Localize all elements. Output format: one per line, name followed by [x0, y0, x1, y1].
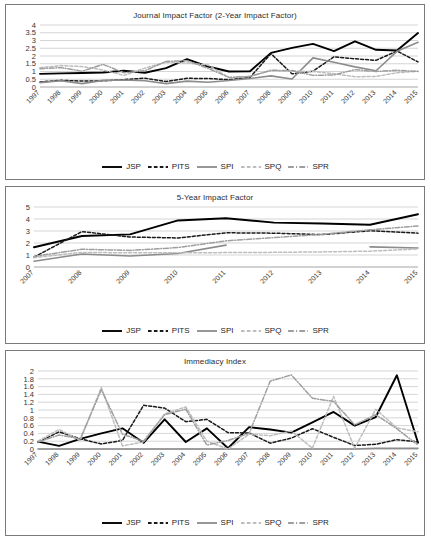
legend-item-jsp[interactable]: JSP [101, 327, 141, 335]
y-axis-tick-label: 2 [26, 239, 30, 248]
y-axis-tick-label: 1 [30, 406, 34, 415]
chart-panel-five-year-impact-factor: 5-Year Impact Factor 0123452007200820092… [5, 186, 425, 344]
chart-panel-journal-impact-factor: Journal Impact Factor (2-Year Impact Fac… [5, 4, 425, 180]
x-axis-tick-label: 2014 [382, 89, 398, 105]
x-axis-tick-label: 1997 [23, 451, 39, 467]
legend-item-pits[interactable]: PITS [147, 327, 190, 335]
x-axis-tick-label: 2005 [193, 89, 209, 105]
legend-swatch-pits [147, 163, 169, 171]
y-axis-tick-label: 2.5 [26, 44, 36, 53]
chart-legend: JSPPITSSPISPQSPR [6, 327, 424, 335]
legend-label-spr: SPR [312, 327, 328, 335]
x-axis-tick-label: 2006 [214, 89, 230, 105]
chart-legend: JSPPITSSPISPQSPR [6, 163, 424, 171]
x-axis-tick-label: 2008 [255, 451, 271, 467]
legend-label-pits: PITS [172, 519, 190, 527]
y-axis-tick-label: 3 [26, 227, 30, 236]
legend-swatch-spi [196, 163, 218, 171]
x-axis-tick-label: 2010 [298, 89, 314, 105]
legend-item-spr[interactable]: SPR [287, 519, 328, 527]
y-axis-tick-label: 1.4 [24, 390, 34, 399]
y-axis-tick-label: 5 [26, 203, 30, 212]
x-axis-tick-label: 1997 [25, 89, 41, 105]
chart-canvas-five-year-impact-factor: 0123452007200820092010201120122013201420… [6, 203, 426, 311]
x-axis-tick-label: 2009 [277, 89, 293, 105]
legend-item-jsp[interactable]: JSP [101, 519, 141, 527]
legend-swatch-spr [287, 163, 309, 171]
series-line-jsp [38, 375, 418, 448]
y-axis-tick-label: 1 [26, 251, 30, 260]
legend-item-jsp[interactable]: JSP [101, 163, 141, 171]
legend-label-jsp: JSP [126, 163, 141, 171]
x-axis-tick-label: 2009 [115, 269, 131, 285]
x-axis-tick-label: 2003 [151, 89, 167, 105]
y-axis-tick-label: 0.2 [24, 437, 34, 446]
x-axis-tick-label: 2007 [235, 89, 251, 105]
x-axis-tick-label: 2013 [361, 451, 377, 467]
x-axis-tick-label: 1998 [46, 89, 62, 105]
x-axis-tick-label: 1999 [67, 89, 83, 105]
x-axis-tick-label: 2004 [171, 451, 187, 467]
x-axis-tick-label: 2011 [319, 451, 335, 467]
x-axis-tick-label: 2012 [339, 451, 355, 467]
x-axis-tick-label: 2007 [19, 269, 35, 285]
x-axis-tick-label: 2015 [403, 269, 419, 285]
x-axis-tick-label: 2001 [109, 89, 125, 105]
x-axis-tick-label: 2008 [256, 89, 272, 105]
chart-canvas-immediacy-index: 00.20.40.60.811.21.41.61.821997199819992… [6, 367, 426, 493]
legend-item-spr[interactable]: SPR [287, 163, 328, 171]
series-line-spq [38, 387, 418, 449]
y-axis-tick-label: 1 [32, 67, 36, 76]
x-axis-tick-label: 2004 [172, 89, 188, 105]
legend-swatch-jsp [101, 519, 123, 527]
x-axis-tick-label: 2002 [130, 89, 146, 105]
chart-title: Journal Impact Factor (2-Year Impact Fac… [6, 11, 424, 20]
legend-item-spi[interactable]: SPI [196, 327, 234, 335]
series-line-spi [38, 448, 418, 449]
x-axis-tick-label: 2002 [128, 451, 144, 467]
legend-label-spq: SPQ [265, 327, 282, 335]
x-axis-tick-label: 2006 [213, 451, 229, 467]
y-axis-tick-label: 3.5 [26, 28, 36, 37]
legend-swatch-spr [287, 327, 309, 335]
legend-item-pits[interactable]: PITS [147, 163, 190, 171]
legend-item-spi[interactable]: SPI [196, 163, 234, 171]
x-axis-tick-label: 2010 [297, 451, 313, 467]
screenshot-page: Journal Impact Factor (2-Year Impact Fac… [0, 0, 431, 540]
legend-swatch-pits [147, 519, 169, 527]
chart-legend: JSPPITSSPISPQSPR [6, 519, 424, 527]
legend-swatch-jsp [101, 163, 123, 171]
x-axis-tick-label: 1999 [65, 451, 81, 467]
legend-item-spq[interactable]: SPQ [240, 519, 282, 527]
x-axis-tick-label: 2000 [86, 451, 102, 467]
x-axis-tick-label: 2005 [192, 451, 208, 467]
x-axis-tick-label: 2010 [163, 269, 179, 285]
y-axis-tick-label: 0.4 [24, 429, 34, 438]
x-axis-tick-label: 2012 [340, 89, 356, 105]
legend-swatch-spq [240, 163, 262, 171]
legend-label-jsp: JSP [126, 327, 141, 335]
legend-label-spr: SPR [312, 163, 328, 171]
y-axis-tick-label: 0.6 [24, 421, 34, 430]
legend-label-pits: PITS [172, 327, 190, 335]
chart-title: Immediacy Index [6, 357, 424, 366]
legend-item-spq[interactable]: SPQ [240, 327, 282, 335]
x-axis-tick-label: 2013 [361, 89, 377, 105]
y-axis-tick-label: 3 [32, 36, 36, 45]
legend-swatch-spr [287, 519, 309, 527]
legend-swatch-spq [240, 519, 262, 527]
y-axis-tick-label: 0.8 [24, 414, 34, 423]
legend-label-spq: SPQ [265, 163, 282, 171]
y-axis-tick-label: 1.6 [24, 382, 34, 391]
legend-item-spr[interactable]: SPR [287, 327, 328, 335]
legend-label-pits: PITS [172, 163, 190, 171]
legend-item-pits[interactable]: PITS [147, 519, 190, 527]
plot-area: 00.20.40.60.811.21.41.61.821997199819992… [6, 367, 426, 493]
y-axis-tick-label: 1.2 [24, 398, 34, 407]
legend-label-spq: SPQ [265, 519, 282, 527]
y-axis-tick-label: 2 [32, 52, 36, 61]
legend-label-spi: SPI [221, 327, 234, 335]
legend-item-spi[interactable]: SPI [196, 519, 234, 527]
legend-label-spi: SPI [221, 519, 234, 527]
legend-item-spq[interactable]: SPQ [240, 163, 282, 171]
